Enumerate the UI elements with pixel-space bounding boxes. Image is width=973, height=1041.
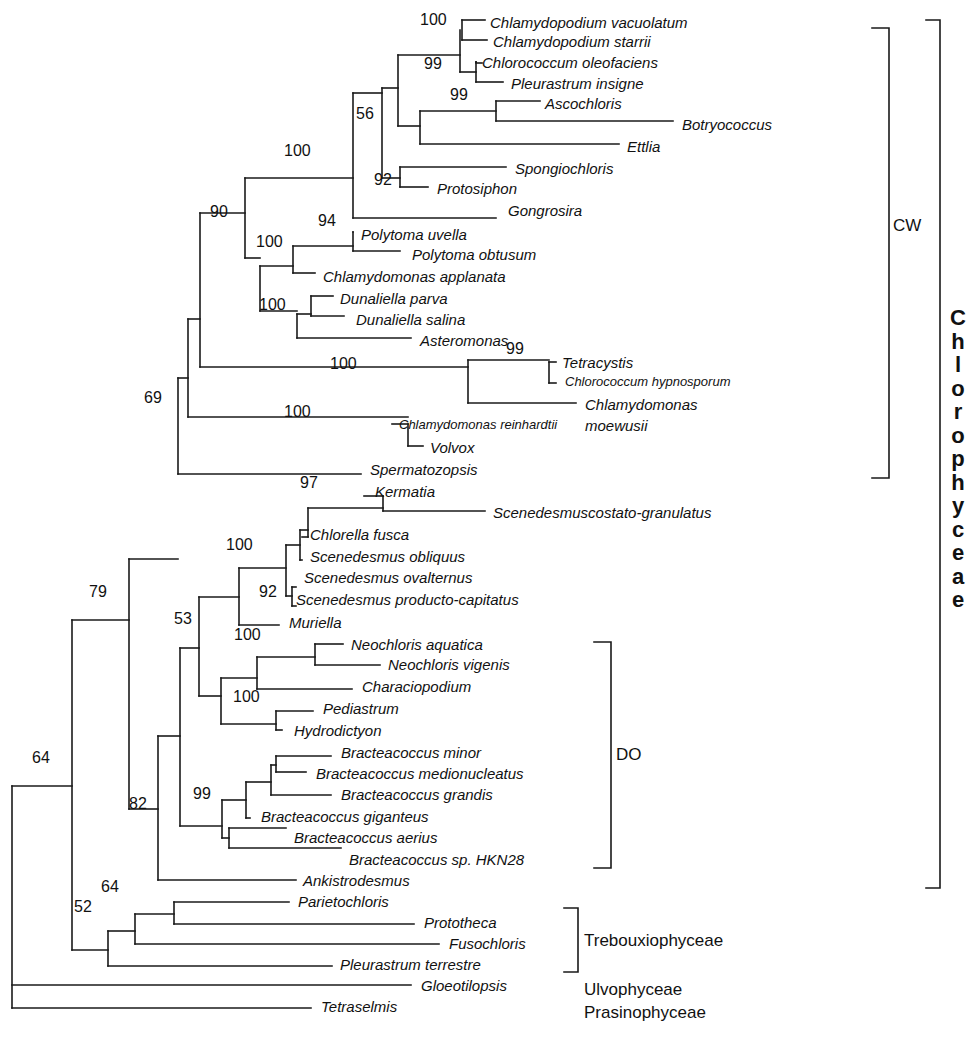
taxon-label: Scenedesmus obliquus xyxy=(310,549,465,564)
letter: a xyxy=(946,565,970,589)
taxon-label: Ascochloris xyxy=(545,96,622,111)
taxon-label: Spermatozopsis xyxy=(370,462,478,477)
taxon-label: Chlorococcum hypnosporum xyxy=(565,375,730,388)
letter: e xyxy=(946,588,970,612)
taxon-label: Chlamydopodium starrii xyxy=(493,34,651,49)
do-bracket xyxy=(594,642,611,868)
taxon-label: Scenedesmus ovalternus xyxy=(304,570,472,585)
letter: p xyxy=(946,447,970,471)
taxon-label: Chlamydomonas applanata xyxy=(323,269,506,284)
bootstrap-value: 64 xyxy=(101,879,119,895)
bootstrap-value: 53 xyxy=(174,611,192,627)
taxon-label: Bracteacoccus medionucleatus xyxy=(316,766,524,781)
group-label-do: DO xyxy=(616,746,642,763)
phylogenetic-tree xyxy=(0,0,973,1041)
taxon-label: Protosiphon xyxy=(437,181,517,196)
bootstrap-value: 56 xyxy=(356,106,374,122)
taxon-label: Kermatia xyxy=(375,484,435,499)
taxon-label: Chlorella fusca xyxy=(310,527,409,542)
letter: o xyxy=(946,377,970,401)
taxon-label: Pediastrum xyxy=(323,701,399,716)
group-label-ulvophyceae: Ulvophyceae xyxy=(584,981,682,998)
taxon-label: Neochloris aquatica xyxy=(351,637,483,652)
bootstrap-value: 99 xyxy=(193,786,211,802)
taxon-label: Scenedesmus producto-capitatus xyxy=(296,592,519,607)
letter: l xyxy=(946,353,970,377)
taxon-label: Polytoma uvella xyxy=(361,227,467,242)
letter: c xyxy=(946,518,970,542)
bootstrap-value: 99 xyxy=(424,56,442,72)
taxon-label: Chlamydomonas xyxy=(585,397,698,412)
group-label-trebouxiophyceae: Trebouxiophyceae xyxy=(584,932,723,949)
taxon-label: Parietochloris xyxy=(298,894,389,909)
taxon-label: Muriella xyxy=(289,615,342,630)
taxon-label: Fusochloris xyxy=(449,936,526,951)
letter: y xyxy=(946,494,970,518)
taxon-label: Scenedesmuscostato-granulatus xyxy=(493,505,711,520)
taxon-label: Bracteacoccus minor xyxy=(341,745,481,760)
taxon-label: Pleurastrum terrestre xyxy=(340,957,481,972)
taxon-label: Characiopodium xyxy=(362,679,471,694)
bootstrap-value: 100 xyxy=(226,537,253,553)
bootstrap-value: 99 xyxy=(450,87,468,103)
letter: e xyxy=(946,541,970,565)
bootstrap-value: 100 xyxy=(284,404,311,420)
bootstrap-value: 100 xyxy=(284,143,311,159)
taxon-label: Ankistrodesmus xyxy=(303,873,410,888)
taxon-label: Bracteacoccus giganteus xyxy=(261,809,429,824)
bootstrap-value: 100 xyxy=(330,356,357,372)
group-label-chlorophyceae: C h l o r o p h y c e a e xyxy=(946,306,970,612)
bootstrap-value: 90 xyxy=(210,204,228,220)
bootstrap-value: 82 xyxy=(129,796,147,812)
bootstrap-value: 92 xyxy=(259,584,277,600)
taxon-label: Dunaliella salina xyxy=(356,312,465,327)
taxon-label: Gongrosira xyxy=(508,203,582,218)
taxon-label: Bracteacoccus aerius xyxy=(294,830,437,845)
taxon-label: Neochloris vigenis xyxy=(388,657,510,672)
bootstrap-value: 52 xyxy=(74,899,92,915)
chlorophyceae-bracket xyxy=(926,20,940,888)
letter: C xyxy=(946,306,970,330)
group-label-cw: CW xyxy=(893,217,921,234)
taxon-label: Chlorococcum oleofaciens xyxy=(482,55,658,70)
letter: r xyxy=(946,400,970,424)
bootstrap-value: 92 xyxy=(374,172,392,188)
taxon-label: Spongiochloris xyxy=(515,161,613,176)
taxon-label: Prototheca xyxy=(424,915,497,930)
letter: h xyxy=(946,330,970,354)
bootstrap-value: 69 xyxy=(144,390,162,406)
letter: h xyxy=(946,471,970,495)
bootstrap-value: 79 xyxy=(89,584,107,600)
taxon-label: Bracteacoccus sp. HKN28 xyxy=(349,852,524,867)
taxon-label: Dunaliella parva xyxy=(340,291,448,306)
bootstrap-value: 100 xyxy=(420,12,447,28)
taxon-label: Pleurastrum insigne xyxy=(511,76,644,91)
taxon-label: Volvox xyxy=(430,440,474,455)
trebouxiophyceae-bracket xyxy=(564,908,578,972)
taxon-label: Tetracystis xyxy=(562,355,633,370)
letter: o xyxy=(946,424,970,448)
taxon-label: Chlamydomonas reinhardtii xyxy=(399,418,557,431)
taxon-label: Ettlia xyxy=(627,139,660,154)
bootstrap-value: 94 xyxy=(318,213,336,229)
bootstrap-value: 100 xyxy=(259,297,286,313)
bootstrap-value: 100 xyxy=(234,627,261,643)
taxon-label: Chlamydopodium vacuolatum xyxy=(490,15,688,30)
group-label-prasinophyceae: Prasinophyceae xyxy=(584,1004,706,1021)
taxon-label: Gloeotilopsis xyxy=(421,978,507,993)
bootstrap-value: 99 xyxy=(506,341,524,357)
bootstrap-value: 97 xyxy=(300,475,318,491)
bootstrap-value: 64 xyxy=(32,750,50,766)
taxon-label: Botryococcus xyxy=(682,117,772,132)
taxon-label: Bracteacoccus grandis xyxy=(341,787,493,802)
taxon-label: Tetraselmis xyxy=(321,999,397,1014)
taxon-label: Hydrodictyon xyxy=(294,723,382,738)
taxon-label: moewusii xyxy=(585,418,648,433)
taxon-label: Polytoma obtusum xyxy=(412,247,536,262)
bootstrap-value: 100 xyxy=(233,689,260,705)
bootstrap-value: 100 xyxy=(256,234,283,250)
cw-bracket xyxy=(872,28,889,478)
taxon-label: Asteromonas xyxy=(420,333,508,348)
